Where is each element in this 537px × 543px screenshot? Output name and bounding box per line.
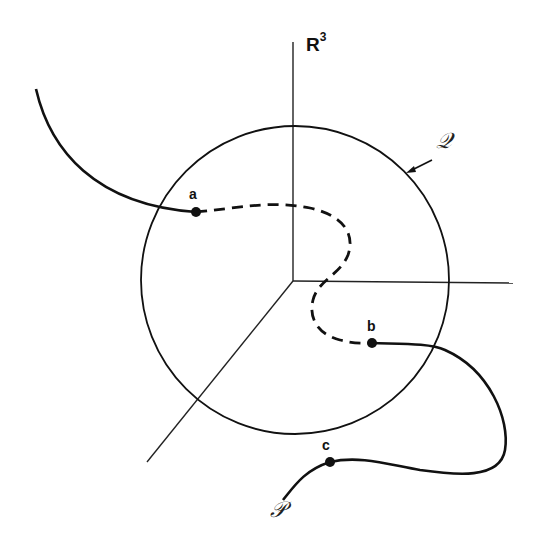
space-label: R3	[306, 33, 326, 56]
x-axis	[147, 281, 293, 462]
curve-p-outer-right	[330, 343, 506, 474]
curve-label: 𝒫	[270, 497, 286, 523]
sphere-q	[141, 126, 449, 434]
diagram-canvas	[0, 0, 537, 543]
sphere-label: 𝒬	[436, 128, 452, 154]
point-a-label: a	[189, 186, 197, 202]
point-a	[191, 207, 201, 217]
point-c	[325, 457, 335, 467]
curve-p-outer-left	[36, 89, 196, 212]
point-b	[367, 338, 377, 348]
curve-p-interior-dashed	[196, 205, 372, 344]
point-b-label: b	[367, 318, 376, 334]
sphere-label-arrow	[412, 160, 432, 170]
point-c-label: c	[322, 437, 330, 453]
space-label-exponent: 3	[320, 30, 327, 44]
curve-p-tail	[283, 462, 330, 500]
arrowhead-icon	[406, 166, 416, 173]
space-label-base: R	[306, 34, 320, 55]
